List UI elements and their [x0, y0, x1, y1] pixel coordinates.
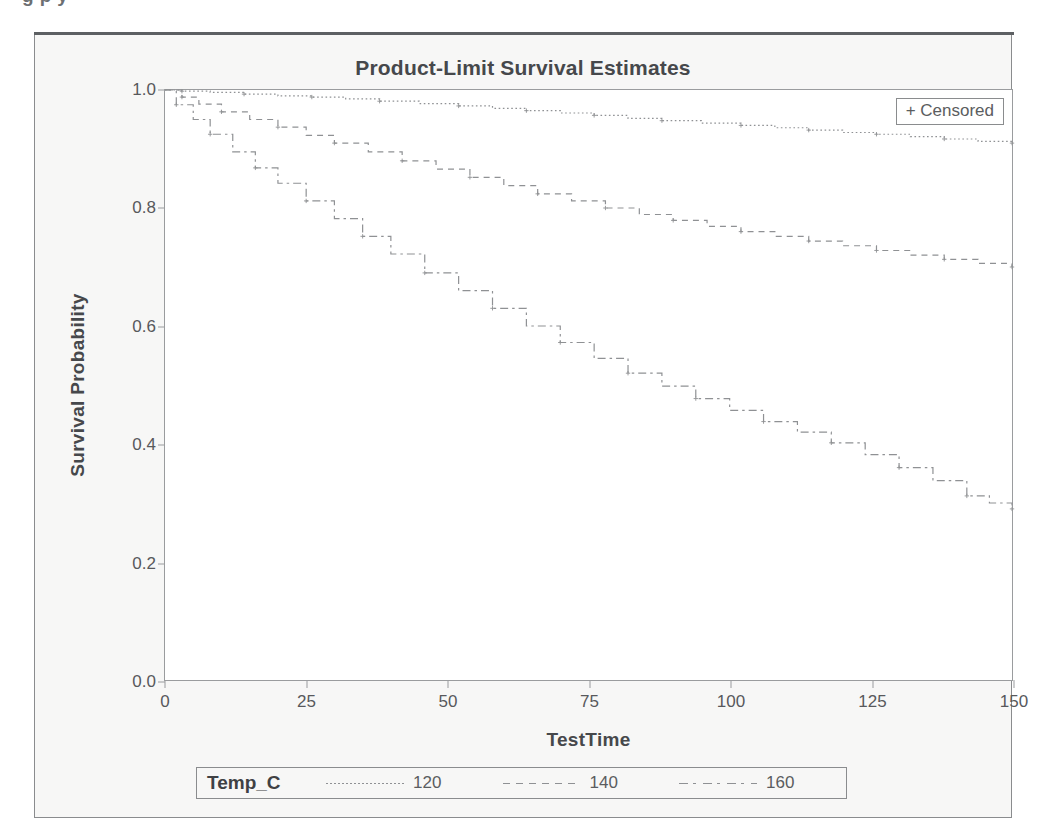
survival-curve-160 [165, 90, 1012, 509]
y-axis-label: Survival Probability [65, 89, 91, 681]
chart-figure: Product-Limit Survival Estimates Surviva… [34, 33, 1012, 818]
x-tick-label: 75 [580, 692, 599, 712]
censored-mark [535, 192, 539, 196]
censored-mark [490, 306, 494, 310]
survival-curves [165, 90, 1012, 680]
censored-mark [304, 199, 308, 203]
x-tick-mark [589, 680, 590, 688]
censored-mark [965, 494, 969, 498]
legend-item-160[interactable]: 160 [679, 773, 794, 793]
legend-item-label: 140 [590, 773, 618, 793]
x-tick-label: 50 [439, 692, 458, 712]
x-tick-mark [165, 680, 166, 688]
survival-curve-140 [165, 90, 1012, 267]
survival-curve-120 [165, 90, 1012, 143]
censored-mark [400, 159, 404, 163]
censored-mark [626, 371, 630, 375]
legend-item-120[interactable]: 120 [326, 773, 441, 793]
x-tick-mark [1014, 680, 1015, 688]
legend-item-label: 120 [413, 773, 441, 793]
x-tick-mark [448, 680, 449, 688]
y-tick-mark [158, 326, 165, 327]
censored-mark [603, 206, 607, 210]
y-tick-label: 0.8 [132, 198, 156, 218]
censored-mark [253, 166, 257, 170]
legend-title: Temp_C [207, 772, 281, 794]
censored-mark [660, 118, 664, 122]
censored-mark [524, 108, 528, 112]
censored-mark [360, 234, 364, 238]
censored-mark [739, 123, 743, 127]
censored-mark [739, 229, 743, 233]
top-caption-strip: g p y [0, 0, 1061, 16]
x-tick-label: 0 [160, 692, 169, 712]
x-tick-label: 100 [717, 692, 745, 712]
x-tick-mark [872, 680, 873, 688]
y-tick-mark [158, 208, 165, 209]
censored-mark [276, 125, 280, 129]
censored-mark [219, 110, 223, 114]
x-tick-label: 125 [858, 692, 886, 712]
legend-item-label: 160 [766, 773, 794, 793]
x-tick-label: 25 [297, 692, 316, 712]
top-caption-text: g p y [22, 0, 68, 7]
censored-mark [456, 104, 460, 108]
censored-mark [1010, 507, 1014, 511]
censored-mark [208, 132, 212, 136]
censored-mark [694, 396, 698, 400]
censored-mark [874, 132, 878, 136]
censored-mark [942, 137, 946, 141]
x-axis-label-text: TestTime [546, 729, 630, 750]
y-axis-label-text: Survival Probability [67, 293, 89, 476]
censored-mark [874, 248, 878, 252]
censored-mark [423, 271, 427, 275]
censored-mark [761, 419, 765, 423]
x-axis-label: TestTime [164, 729, 1013, 751]
y-tick-label: 0.4 [132, 435, 156, 455]
censored-mark [1010, 265, 1014, 269]
x-tick-mark [306, 680, 307, 688]
y-tick-mark [158, 90, 165, 91]
chart-title: Product-Limit Survival Estimates [35, 56, 1011, 80]
censored-mark [942, 257, 946, 261]
censored-mark [332, 141, 336, 145]
x-tick-mark [731, 680, 732, 688]
y-tick-mark [158, 563, 165, 564]
censored-mark [558, 340, 562, 344]
legend-item-140[interactable]: 140 [503, 773, 618, 793]
y-tick-mark [158, 445, 165, 446]
censored-mark [829, 441, 833, 445]
legend-line-swatch [679, 778, 757, 788]
y-tick-label: 0.0 [132, 672, 156, 692]
legend-line-swatch [326, 778, 404, 788]
legend-items: 120140160 [307, 773, 836, 793]
legend-line-swatch [503, 778, 581, 788]
y-tick-label: 1.0 [132, 80, 156, 100]
censored-mark [377, 99, 381, 103]
censored-mark [174, 103, 178, 107]
plot-area: + Censored 0.00.20.40.60.81.0 0255075100… [164, 89, 1013, 681]
censored-mark [180, 95, 184, 99]
y-tick-label: 0.2 [132, 554, 156, 574]
censored-mark [807, 239, 811, 243]
censored-mark [671, 218, 675, 222]
censored-mark [468, 175, 472, 179]
censored-mark [807, 128, 811, 132]
censored-mark [592, 113, 596, 117]
series-legend: Temp_C 120140160 [196, 767, 847, 799]
y-tick-label: 0.6 [132, 317, 156, 337]
x-tick-label: 150 [1000, 692, 1028, 712]
censored-mark [897, 465, 901, 469]
